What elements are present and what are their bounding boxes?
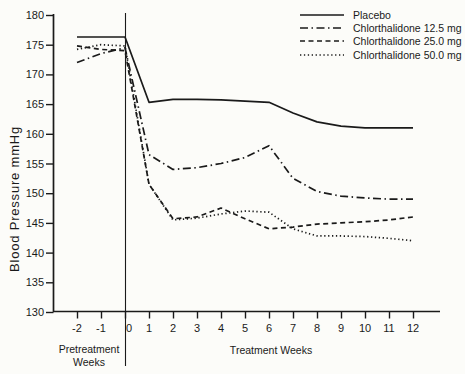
x-tick-label: 8 [314,322,320,334]
y-tick-label: 145 [26,217,44,229]
legend-item-placebo: Placebo [299,8,462,21]
legend-label-chlorthalidone-50-0: Chlorthalidone 50.0 mg [353,49,462,61]
y-tick-label: 160 [26,128,44,140]
x-tick-label: 9 [338,322,344,334]
x-tick-label: 1 [146,322,152,334]
y-tick-label: 155 [26,158,44,170]
dashed-line-sample-icon [299,36,345,46]
legend-label-chlorthalidone-12-5: Chlorthalidone 12.5 mg [353,22,462,34]
y-axis-title: Blood Pressure mmHg [7,126,22,272]
legend: Placebo Chlorthalidone 12.5 mg Chlorthal… [299,8,462,62]
x-tick-label: 3 [194,322,200,334]
x-tick-label: 0 [126,322,132,334]
dashdot-line-sample-icon [299,23,345,33]
legend-item-chlorthalidone-50-0: Chlorthalidone 50.0 mg [299,48,462,61]
dotted-line-sample-icon [299,50,345,60]
series-line-dashdot [77,48,413,199]
y-tick-label: 150 [26,187,44,199]
x-tick-label: 4 [218,322,224,334]
y-tick-label: 165 [26,98,44,110]
x-axis-title-treatment: Treatment Weeks [230,344,312,357]
x-tick-label: -1 [96,322,106,334]
x-tick-label: 5 [242,322,248,334]
x-tick-label: 6 [266,322,272,334]
y-tick-label: 175 [26,39,44,51]
y-tick-label: 140 [26,247,44,259]
x-tick-label: -2 [72,322,82,334]
legend-label-chlorthalidone-25-0: Chlorthalidone 25.0 mg [353,35,462,47]
y-tick-label: 130 [26,306,44,318]
x-axis-title-pretreatment: Pretreatment Weeks [59,343,120,368]
legend-item-chlorthalidone-12-5: Chlorthalidone 12.5 mg [299,21,462,34]
y-tick-label: 180 [26,9,44,21]
legend-item-chlorthalidone-25-0: Chlorthalidone 25.0 mg [299,35,462,48]
blood-pressure-chart: 130135140145150155160165170175180-2-1012… [0,0,465,374]
y-tick-label: 135 [26,276,44,288]
x-tick-label: 11 [383,322,394,334]
x-tick-label: 12 [407,322,419,334]
y-tick-label: 170 [26,68,44,80]
legend-label-placebo: Placebo [353,9,391,21]
series-line-dotted [77,45,413,241]
x-tick-label: 2 [170,322,176,334]
series-line-dashed [77,46,413,229]
x-tick-label: 10 [359,322,371,334]
x-tick-label: 7 [290,322,296,334]
placebo-line-sample-icon [299,10,345,20]
